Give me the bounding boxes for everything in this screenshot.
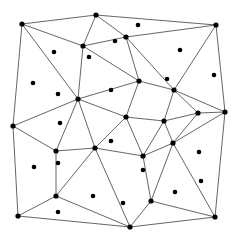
edge-M-P xyxy=(164,121,173,143)
vertex-P xyxy=(170,140,175,145)
edge-N-O xyxy=(56,148,95,151)
site-point xyxy=(91,194,96,199)
vertex-G xyxy=(75,96,80,101)
site-point xyxy=(178,48,183,53)
site-point xyxy=(141,168,146,173)
vertex-S xyxy=(148,198,153,203)
site-point xyxy=(58,121,63,126)
vertex-K xyxy=(195,110,200,115)
vertex-N xyxy=(53,148,58,153)
vertex-R xyxy=(53,193,58,198)
edge-S-V xyxy=(151,201,215,217)
edge-L-M xyxy=(126,117,164,121)
vertex-F xyxy=(10,123,15,128)
site-point xyxy=(136,23,141,28)
edge-O-Q xyxy=(95,148,143,156)
edge-O-R xyxy=(56,148,95,196)
edge-F-N xyxy=(13,126,56,151)
edge-R-T xyxy=(18,196,56,216)
vertex-Q xyxy=(140,153,145,158)
edge-M-Q xyxy=(143,121,164,156)
edge-P-S xyxy=(151,143,173,201)
site-point xyxy=(31,81,36,86)
site-point xyxy=(165,77,170,82)
site-point xyxy=(197,150,202,155)
edge-U-V xyxy=(130,217,215,227)
vertex-layer xyxy=(10,12,227,229)
vertex-A xyxy=(19,21,24,26)
vertex-J xyxy=(222,109,227,114)
edge-D-E xyxy=(83,37,126,46)
vertex-U xyxy=(127,224,132,229)
site-point xyxy=(109,88,114,93)
edge-G-H xyxy=(78,81,139,99)
edge-K-P xyxy=(173,113,198,143)
edge-E-C xyxy=(126,25,216,37)
edge-T-U xyxy=(18,216,130,227)
vertex-L xyxy=(123,114,128,119)
site-point xyxy=(121,201,126,206)
site-point xyxy=(212,73,217,78)
edge-E-I xyxy=(126,37,174,90)
edge-A-G xyxy=(22,24,78,99)
edge-Q-S xyxy=(143,156,151,201)
edge-layer xyxy=(13,15,225,227)
site-point xyxy=(56,210,61,215)
edge-A-F xyxy=(13,24,22,126)
edge-P-V xyxy=(173,143,215,217)
edge-I-K xyxy=(174,90,198,113)
site-point xyxy=(87,55,92,60)
edge-A-D xyxy=(22,24,83,46)
edge-B-C xyxy=(96,15,216,25)
edge-C-I xyxy=(174,25,216,90)
vertex-T xyxy=(15,213,20,218)
edge-L-Q xyxy=(126,117,143,156)
vertex-B xyxy=(93,12,98,17)
triangulation-diagram xyxy=(0,0,236,239)
site-point xyxy=(109,139,114,144)
edge-L-O xyxy=(95,117,126,148)
vertex-C xyxy=(213,22,218,27)
site-point xyxy=(199,179,204,184)
edge-A-B xyxy=(22,15,96,24)
site-point xyxy=(32,165,37,170)
edge-B-D xyxy=(83,15,96,46)
site-point xyxy=(56,92,61,97)
edge-S-U xyxy=(130,201,151,227)
edge-J-V xyxy=(215,112,225,217)
diagram-canvas xyxy=(0,0,236,239)
site-layer xyxy=(31,23,217,215)
vertex-M xyxy=(161,118,166,123)
edge-O-U xyxy=(95,148,130,227)
site-point xyxy=(56,161,61,166)
vertex-D xyxy=(80,43,85,48)
edge-F-T xyxy=(13,126,18,216)
edge-K-J xyxy=(198,112,225,113)
edge-D-G xyxy=(78,46,83,99)
vertex-H xyxy=(136,78,141,83)
site-point xyxy=(173,190,178,195)
edge-B-E xyxy=(96,15,126,37)
vertex-V xyxy=(212,214,217,219)
edge-I-M xyxy=(164,90,174,121)
edge-C-J xyxy=(216,25,225,112)
site-point xyxy=(113,39,118,44)
site-point xyxy=(52,50,57,55)
vertex-O xyxy=(92,145,97,150)
edge-G-O xyxy=(78,99,95,148)
edge-H-L xyxy=(126,81,139,117)
vertex-E xyxy=(123,34,128,39)
edge-R-U xyxy=(56,196,130,227)
edge-I-J xyxy=(174,90,225,112)
vertex-I xyxy=(171,87,176,92)
edge-G-L xyxy=(78,99,126,117)
edge-H-I xyxy=(139,81,174,90)
